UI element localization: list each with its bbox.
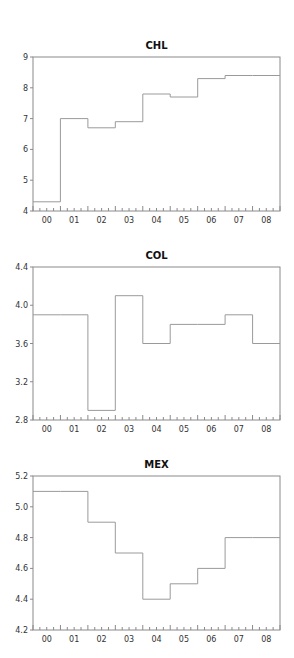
y-tick-label: 5 [23, 176, 28, 185]
x-tick-label: 06 [206, 635, 216, 644]
plot-frame [33, 476, 280, 630]
y-tick-label: 4.8 [15, 534, 28, 543]
chart-title: CHL [145, 40, 168, 51]
chl-plot: CHL456789000102030405060708 [0, 0, 294, 230]
x-tick-label: 02 [97, 635, 107, 644]
x-tick-label: 01 [69, 635, 79, 644]
x-tick-label: 03 [124, 635, 134, 644]
y-tick-label: 4.6 [15, 564, 28, 573]
y-tick-label: 3.2 [15, 378, 28, 387]
y-tick-label: 4.4 [15, 595, 28, 604]
series-line [33, 491, 280, 599]
y-tick-label: 4.2 [15, 626, 28, 635]
y-tick-label: 9 [23, 53, 28, 62]
y-tick-label: 3.6 [15, 340, 28, 349]
chart-title: MEX [144, 459, 169, 470]
x-tick-label: 05 [179, 635, 189, 644]
y-tick-label: 4.0 [15, 301, 28, 310]
chart-col: COL2.83.23.64.04.4000102030405060708 [0, 210, 294, 440]
mex-plot: MEX4.24.44.64.85.05.2000102030405060708 [0, 419, 294, 658]
plot-frame [33, 57, 280, 211]
x-tick-label: 08 [261, 635, 271, 644]
chart-title: COL [145, 250, 168, 261]
y-tick-label: 6 [23, 145, 28, 154]
col-plot: COL2.83.23.64.04.4000102030405060708 [0, 210, 294, 440]
x-tick-label: 04 [151, 635, 161, 644]
y-tick-label: 7 [23, 115, 28, 124]
y-tick-label: 8 [23, 84, 28, 93]
series-line [33, 76, 280, 202]
series-line [33, 296, 280, 411]
chart-mex: MEX4.24.44.64.85.05.2000102030405060708 [0, 419, 294, 658]
x-tick-label: 07 [234, 635, 244, 644]
y-tick-label: 4.4 [15, 263, 28, 272]
y-tick-label: 5.0 [15, 503, 28, 512]
y-tick-label: 5.2 [15, 472, 28, 481]
x-tick-label: 00 [42, 635, 52, 644]
chart-chl: CHL456789000102030405060708 [0, 0, 294, 230]
